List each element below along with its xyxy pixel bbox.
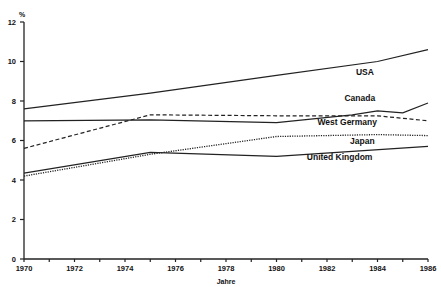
x-tick-label: 1984: [369, 264, 387, 273]
series-label-usa: USA: [356, 67, 374, 77]
series-label-united-kingdom: United Kingdom: [307, 152, 373, 162]
series-label-canada: Canada: [344, 93, 375, 103]
series-labels: USACanadaWest GermanyJapanUnited Kingdom: [307, 67, 377, 162]
x-axis-title: Jahre: [217, 278, 236, 285]
y-tick-label: 8: [12, 97, 16, 106]
y-tick-label: 6: [12, 136, 16, 145]
y-axis-unit-label: %: [19, 11, 26, 18]
x-tick-label: 1970: [16, 264, 33, 273]
x-tick-label: 1974: [117, 264, 135, 273]
y-tick-label: 4: [12, 176, 17, 185]
x-tick-label: 1982: [319, 264, 336, 273]
series-label-japan: Japan: [350, 136, 375, 146]
y-tick-label: 2: [12, 215, 16, 224]
y-tick-label: 0: [12, 255, 16, 264]
x-tick-label: 1976: [167, 264, 184, 273]
x-tick-label: 1978: [218, 264, 235, 273]
x-tick-label: 1972: [66, 264, 83, 273]
y-tick-label: 10: [8, 57, 16, 66]
series-label-west-germany: West Germany: [318, 117, 378, 127]
x-tick-label: 1980: [268, 264, 285, 273]
x-tick-label: 1986: [420, 264, 437, 273]
y-tick-label: 12: [8, 18, 16, 27]
line-chart: 0246810121970197219741976197819801982198…: [0, 0, 441, 287]
